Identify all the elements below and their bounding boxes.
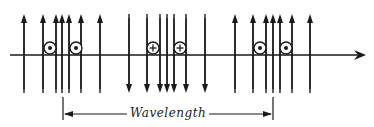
dot-icon [74, 46, 78, 50]
wavelength-label: Wavelength [127, 106, 209, 120]
dot-icon [284, 46, 288, 50]
arrow-right-icon [263, 111, 272, 117]
dot-icon [258, 46, 262, 50]
arrow-left-icon [64, 111, 73, 117]
wave-diagram: Wavelength [0, 0, 374, 127]
dot-icon [48, 46, 52, 50]
